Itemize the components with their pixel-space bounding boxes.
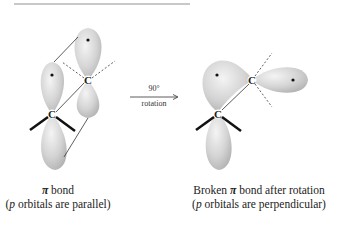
left-caption: π bond (p orbitals are parallel) (0, 183, 116, 211)
right-caption-title: Broken π bond after rotation (176, 183, 342, 197)
left-pi-bond-structure: C C (30, 28, 115, 170)
left-caption-title: π bond (0, 183, 116, 197)
carbon-atom-label: C (248, 74, 256, 86)
carbon-atom-label: C (214, 108, 222, 120)
orbital-lobe (252, 67, 308, 93)
arrow-label-angle: 90° (128, 84, 180, 93)
right-broken-pi-structure: C C (196, 53, 308, 170)
electron-dot (291, 78, 294, 81)
right-caption: Broken π bond after rotation (p orbitals… (176, 183, 342, 211)
electron-dot (86, 38, 89, 41)
right-caption-subtitle: (p orbitals are perpendicular) (176, 197, 342, 211)
left-caption-subtitle: (p orbitals are parallel) (0, 197, 116, 211)
carbon-atom-label: C (84, 74, 92, 86)
orbital-lobe (75, 28, 102, 80)
electron-dot (215, 73, 218, 76)
orbital-lobe (41, 62, 64, 114)
carbon-atom-label: C (48, 108, 56, 120)
arrow-label-rotation: rotation (128, 99, 180, 108)
electron-dot (50, 73, 53, 76)
